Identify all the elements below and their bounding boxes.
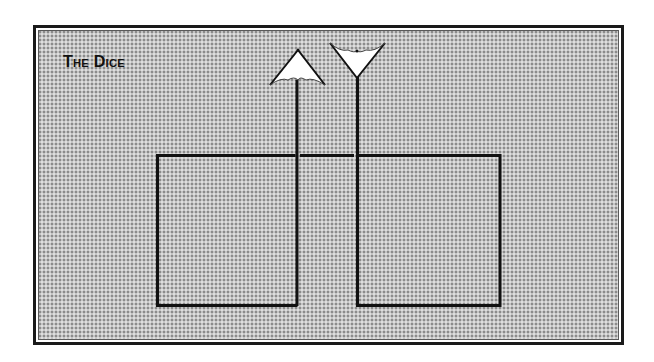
- up-arrow: [270, 49, 325, 307]
- cup-arrowhead-icon: [330, 43, 385, 78]
- down-arrow: [330, 43, 385, 306]
- right-box: [358, 156, 501, 306]
- umbrella-arrowhead-icon: [270, 49, 325, 86]
- dice-diagram: [0, 0, 654, 362]
- left-box: [158, 156, 297, 306]
